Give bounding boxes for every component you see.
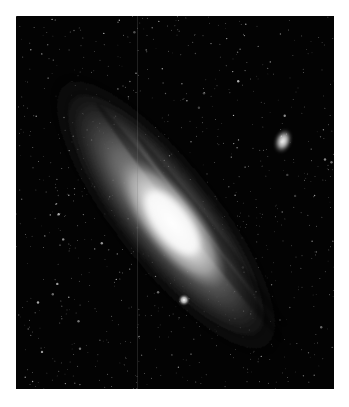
galaxy-photograph: Black-and-white astronomical photograph … bbox=[16, 16, 334, 389]
galaxy-image bbox=[16, 16, 334, 389]
companion-galaxy-lower-center bbox=[178, 294, 190, 306]
scan-line-artifact bbox=[137, 16, 138, 389]
